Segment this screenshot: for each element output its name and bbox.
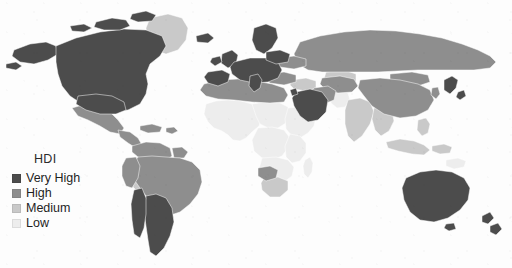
legend-item-medium: Medium <box>12 201 116 216</box>
map-legend: HDI Very High High Medium Low <box>12 152 116 231</box>
legend-swatch-low <box>12 219 21 228</box>
legend-swatch-very-high <box>12 174 21 183</box>
legend-item-high: High <box>12 186 116 201</box>
legend-label-medium: Medium <box>26 201 70 216</box>
legend-label-high: High <box>26 186 52 201</box>
legend-item-low: Low <box>12 216 116 231</box>
legend-title: HDI <box>34 152 116 166</box>
legend-item-very-high: Very High <box>12 171 116 186</box>
legend-label-low: Low <box>26 216 49 231</box>
hdi-world-map-figure: HDI Very High High Medium Low <box>0 0 512 268</box>
legend-swatch-high <box>12 189 21 198</box>
legend-label-very-high: Very High <box>26 171 80 186</box>
legend-swatch-medium <box>12 204 21 213</box>
